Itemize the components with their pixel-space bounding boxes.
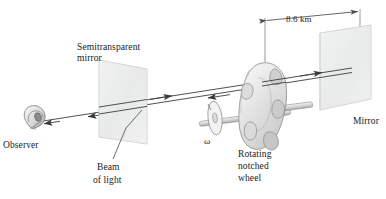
label-rotating-wheel-line3: wheel [238, 173, 261, 184]
beam-of-light-path [40, 68, 352, 124]
rotating-notched-wheel [199, 63, 313, 150]
semitransparent-mirror-plate [99, 60, 147, 144]
label-beam-of-light-line2: of light [93, 175, 122, 186]
label-omega: ω [204, 136, 210, 147]
mirror-plate [320, 25, 371, 110]
label-rotating-wheel-line2: notched [238, 161, 269, 172]
label-observer: Observer [3, 140, 39, 151]
label-semitransparent-mirror-line2: mirror [77, 53, 102, 64]
label-semitransparent-mirror-line1: Semitransparent [77, 42, 140, 53]
label-mirror: Mirror [353, 116, 379, 127]
notched-wheel-disc [239, 63, 287, 150]
label-rotating-wheel-line1: Rotating [238, 149, 272, 160]
eye-icon [24, 106, 45, 129]
apparatus-diagram [0, 0, 386, 199]
label-beam-of-light-line1: Beam [97, 162, 120, 173]
dimension-label-distance: 8.6 km [286, 14, 312, 25]
figure-canvas: 8.6 km Semitransparent mirror Mirror Obs… [0, 0, 386, 199]
